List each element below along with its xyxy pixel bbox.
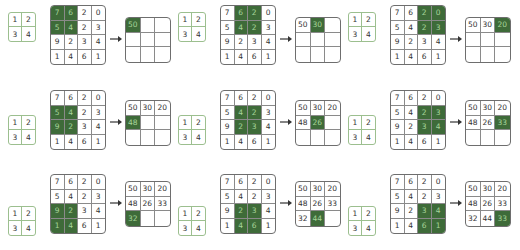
right-arrow-icon	[110, 35, 122, 43]
right-arrow-icon	[110, 118, 122, 126]
kernel-cell: 3	[349, 130, 362, 144]
right-arrow-icon	[280, 199, 292, 207]
kernel-grid: 1234	[8, 12, 36, 42]
output-cell: 50	[466, 18, 481, 33]
input-grid: 7620542392341461	[50, 5, 106, 65]
kernel-cell: 3	[9, 27, 22, 41]
input-grid: 7620542392341461	[220, 90, 276, 150]
input-cell: 3	[92, 21, 106, 36]
kernel-cell: 3	[9, 130, 22, 144]
input-cell: 1	[221, 219, 235, 234]
kernel-cell: 2	[192, 116, 205, 130]
conv-step-panel: 1234762054239234146150302048	[0, 84, 173, 166]
output-cell: 50	[126, 101, 141, 116]
input-cell: 5	[391, 21, 405, 36]
input-cell: 6	[248, 50, 262, 65]
input-cell: 9	[221, 120, 235, 135]
output-cell: 32	[296, 211, 311, 226]
output-cell: 20	[325, 101, 340, 116]
input-cell: 1	[262, 135, 276, 150]
input-cell: 5	[221, 190, 235, 205]
input-cell-highlighted: 3	[248, 204, 262, 219]
input-cell: 6	[405, 91, 419, 106]
output-grid: 503020482633	[465, 100, 511, 146]
output-cell: 26	[311, 197, 326, 212]
input-cell: 4	[432, 35, 446, 50]
kernel-cell: 1	[179, 116, 192, 130]
right-arrow-icon	[110, 199, 122, 207]
kernel-cell: 4	[22, 27, 35, 41]
input-cell: 9	[221, 35, 235, 50]
input-cell: 9	[391, 35, 405, 50]
input-cell: 2	[405, 35, 419, 50]
input-grid: 7620542392341461	[390, 5, 446, 65]
input-cell-highlighted: 4	[65, 219, 79, 234]
input-cell: 1	[92, 50, 106, 65]
input-cell: 0	[92, 91, 106, 106]
input-cell-highlighted: 2	[235, 120, 249, 135]
input-cell-highlighted: 5	[51, 106, 65, 121]
kernel-cell: 1	[179, 13, 192, 27]
input-cell: 1	[391, 50, 405, 65]
input-cell: 5	[391, 106, 405, 121]
output-cell: 33	[325, 197, 340, 212]
output-cell: 26	[481, 116, 496, 131]
input-cell: 3	[262, 106, 276, 121]
kernel-cell: 3	[349, 27, 362, 41]
input-cell: 0	[92, 6, 106, 21]
kernel-cell: 3	[179, 27, 192, 41]
output-grid: 503020482633324433	[465, 181, 511, 227]
input-cell: 6	[405, 6, 419, 21]
kernel-grid: 1234	[8, 206, 36, 236]
input-cell-highlighted: 2	[248, 6, 262, 21]
input-cell: 6	[78, 135, 92, 150]
input-cell: 7	[221, 91, 235, 106]
input-cell: 5	[391, 190, 405, 205]
kernel-cell: 1	[179, 207, 192, 221]
kernel-grid: 1234	[178, 115, 206, 145]
output-cell: 50	[296, 182, 311, 197]
input-grid: 7620542392341461	[390, 174, 446, 234]
input-cell: 6	[235, 175, 249, 190]
input-cell: 2	[78, 6, 92, 21]
input-cell-highlighted: 4	[432, 204, 446, 219]
input-cell: 3	[262, 21, 276, 36]
kernel-cell: 2	[192, 13, 205, 27]
output-cell	[155, 116, 170, 131]
input-cell: 2	[78, 91, 92, 106]
output-cell	[126, 33, 141, 48]
output-cell	[155, 211, 170, 226]
input-cell: 1	[262, 50, 276, 65]
input-cell: 9	[391, 204, 405, 219]
input-cell: 4	[92, 204, 106, 219]
output-cell	[325, 130, 340, 145]
input-cell-highlighted: 6	[65, 6, 79, 21]
input-cell: 7	[221, 6, 235, 21]
kernel-grid: 1234	[348, 115, 376, 145]
output-cell	[155, 47, 170, 62]
output-grid: 50302048263332	[125, 181, 171, 227]
input-cell: 6	[65, 91, 79, 106]
output-cell: 30	[481, 182, 496, 197]
input-cell: 2	[405, 204, 419, 219]
kernel-cell: 2	[362, 13, 375, 27]
input-cell: 4	[262, 35, 276, 50]
output-cell	[325, 116, 340, 131]
kernel-cell: 3	[179, 221, 192, 235]
input-cell: 7	[391, 6, 405, 21]
input-cell: 6	[405, 175, 419, 190]
kernel-cell: 2	[22, 116, 35, 130]
output-cell	[141, 211, 156, 226]
input-cell: 5	[221, 106, 235, 121]
output-cell	[141, 18, 156, 33]
input-cell: 1	[92, 135, 106, 150]
input-cell: 3	[92, 106, 106, 121]
output-cell	[141, 47, 156, 62]
output-cell	[155, 18, 170, 33]
output-cell	[481, 33, 496, 48]
output-cell: 20	[325, 182, 340, 197]
input-cell: 4	[235, 190, 249, 205]
input-cell: 5	[221, 21, 235, 36]
input-cell: 3	[262, 190, 276, 205]
input-cell-highlighted: 2	[235, 204, 249, 219]
